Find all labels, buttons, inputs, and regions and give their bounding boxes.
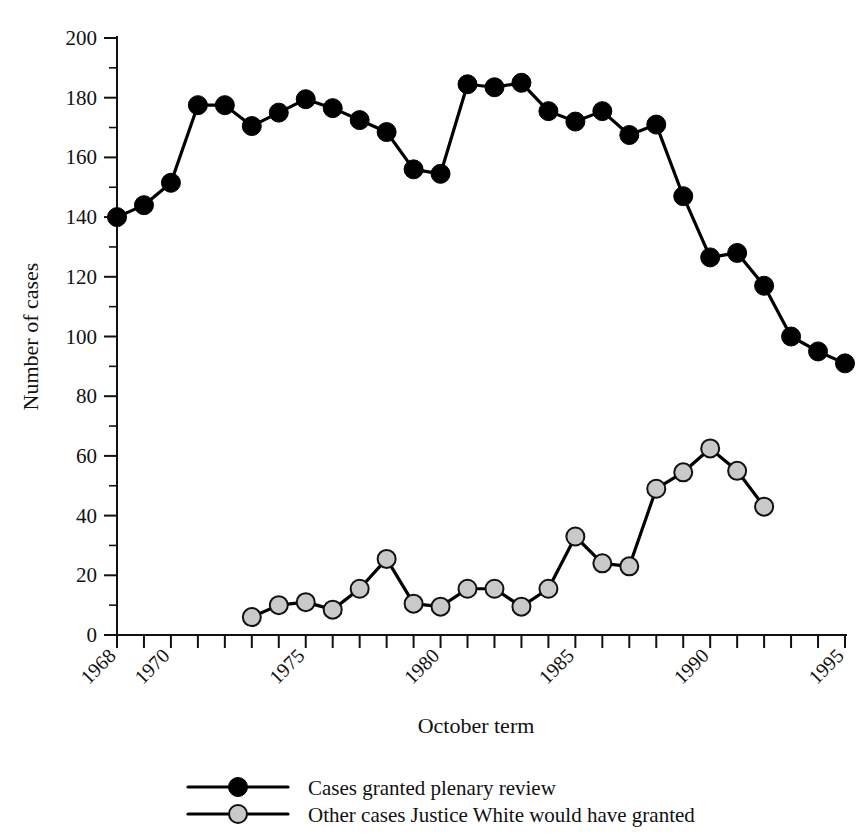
data-point-series-1	[728, 462, 746, 480]
data-point-series-0	[620, 126, 639, 145]
data-point-series-0	[647, 115, 666, 134]
data-point-series-0	[512, 73, 531, 92]
data-point-series-1	[351, 580, 369, 598]
data-point-series-0	[755, 276, 774, 295]
axes-group	[104, 37, 846, 648]
data-point-series-1	[485, 580, 503, 598]
data-point-series-0	[836, 354, 855, 373]
data-point-series-1	[432, 598, 450, 616]
data-point-series-1	[701, 439, 719, 457]
y-tick-label: 180	[66, 86, 98, 110]
data-point-series-1	[270, 596, 288, 614]
x-axis-title: October term	[418, 713, 535, 738]
data-point-series-0	[188, 96, 207, 115]
data-point-series-0	[431, 164, 450, 183]
data-point-series-0	[809, 342, 828, 361]
data-point-series-0	[161, 173, 180, 192]
data-point-series-0	[674, 187, 693, 206]
y-tick-labels: 020406080100120140160180200	[66, 26, 98, 647]
data-point-series-0	[108, 208, 127, 227]
data-point-series-0	[701, 248, 720, 267]
data-point-series-0	[458, 75, 477, 94]
y-axis-title: Number of cases	[18, 263, 43, 411]
data-point-series-1	[324, 601, 342, 619]
data-point-series-1	[459, 580, 477, 598]
chart-page: 020406080100120140160180200 196819701975…	[0, 0, 866, 839]
data-point-series-1	[566, 527, 584, 545]
legend-label-1: Other cases Justice White would have gra…	[308, 803, 695, 827]
data-point-series-0	[215, 96, 234, 115]
y-tick-label: 40	[76, 504, 97, 528]
y-tick-label: 60	[76, 444, 97, 468]
data-point-series-0	[566, 112, 585, 131]
data-point-series-1	[674, 463, 692, 481]
x-tick-label: 1995	[804, 644, 848, 688]
legend-swatch-marker-0	[229, 778, 248, 797]
y-tick-label: 160	[66, 145, 98, 169]
data-point-series-1	[620, 557, 638, 575]
data-point-series-0	[134, 196, 153, 215]
data-point-series-0	[728, 243, 747, 262]
data-point-series-0	[377, 123, 396, 142]
data-point-series-0	[782, 327, 801, 346]
x-tick-label: 1980	[400, 644, 444, 688]
x-tick-labels: 1968197019751980198519901995	[76, 644, 848, 688]
data-point-series-1	[593, 554, 611, 572]
data-point-series-0	[404, 160, 423, 179]
data-point-series-1	[647, 480, 665, 498]
line-chart: 020406080100120140160180200 196819701975…	[0, 0, 866, 839]
series-line-0	[117, 83, 845, 364]
data-point-series-1	[512, 598, 530, 616]
data-point-series-0	[323, 99, 342, 118]
x-tick-label: 1968	[76, 644, 120, 688]
legend-label-0: Cases granted plenary review	[308, 776, 557, 800]
data-point-series-0	[296, 90, 315, 109]
data-point-series-0	[350, 111, 369, 130]
legend: Cases granted plenary reviewOther cases …	[188, 776, 695, 827]
y-tick-label: 0	[87, 623, 98, 647]
x-tick-label: 1975	[265, 644, 309, 688]
y-tick-label: 20	[76, 563, 97, 587]
data-point-series-1	[405, 595, 423, 613]
series-group	[108, 73, 855, 626]
x-tick-label: 1970	[130, 644, 174, 688]
y-tick-label: 140	[66, 205, 98, 229]
data-point-series-0	[269, 103, 288, 122]
legend-swatch-marker-1	[229, 805, 247, 823]
data-point-series-1	[755, 498, 773, 516]
data-point-series-1	[297, 593, 315, 611]
data-point-series-0	[593, 102, 612, 121]
data-point-series-1	[243, 608, 261, 626]
data-point-series-1	[378, 550, 396, 568]
y-tick-label: 100	[66, 325, 98, 349]
data-point-series-0	[539, 102, 558, 121]
data-point-series-0	[242, 117, 261, 136]
x-tick-label: 1985	[534, 644, 578, 688]
y-tick-label: 120	[66, 265, 98, 289]
data-point-series-0	[485, 78, 504, 97]
y-tick-label: 80	[76, 384, 97, 408]
y-tick-label: 200	[66, 26, 98, 50]
data-point-series-1	[539, 580, 557, 598]
x-tick-label: 1990	[669, 644, 713, 688]
